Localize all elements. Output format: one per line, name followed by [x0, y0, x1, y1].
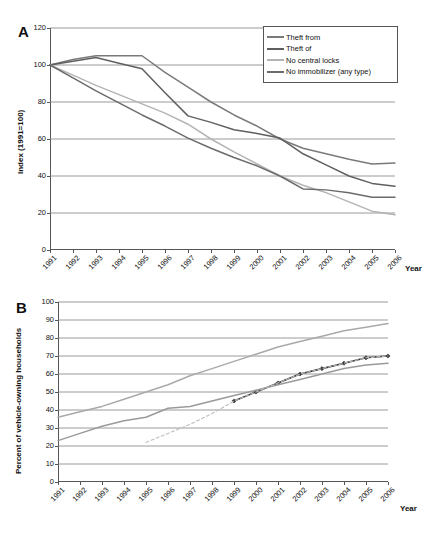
y-tick-label: 80: [32, 334, 54, 342]
x-tick-label: 1996: [155, 486, 176, 507]
panel-b-x-axis-title: Year: [400, 504, 417, 513]
x-tick-mark: [188, 250, 189, 253]
x-tick-label: 1993: [89, 486, 110, 507]
x-tick-mark: [58, 482, 59, 485]
x-tick-mark: [322, 482, 323, 485]
x-tick-label: 1994: [106, 254, 127, 275]
x-tick-mark: [388, 482, 389, 485]
y-tick-mark: [55, 392, 58, 393]
legend-item-label: No immobilizer (any type): [286, 67, 371, 76]
x-tick-mark: [96, 250, 97, 253]
y-tick-mark: [55, 338, 58, 339]
x-tick-mark: [344, 482, 345, 485]
y-tick-mark: [47, 176, 50, 177]
x-tick-mark: [280, 250, 281, 253]
x-tick-label: 2002: [290, 254, 311, 275]
x-tick-label: 1992: [60, 254, 81, 275]
y-tick-mark: [55, 446, 58, 447]
y-tick-label: 80: [24, 98, 46, 106]
y-tick-mark: [47, 102, 50, 103]
x-tick-mark: [303, 250, 304, 253]
x-tick-mark: [142, 250, 143, 253]
y-tick-mark: [55, 320, 58, 321]
y-tick-label: 120: [24, 24, 46, 32]
x-tick-label: 1998: [199, 486, 220, 507]
x-tick-mark: [80, 482, 81, 485]
x-tick-label: 2003: [313, 254, 334, 275]
legend-item[interactable]: Theft from: [267, 33, 395, 42]
y-tick-mark: [55, 410, 58, 411]
panel-b-series-canvas: [58, 302, 388, 482]
x-tick-mark: [102, 482, 103, 485]
y-tick-mark: [47, 65, 50, 66]
x-tick-mark: [372, 250, 373, 253]
x-tick-label: 2004: [331, 486, 352, 507]
panel-a-legend: Theft fromTheft ofNo central locksNo imm…: [263, 26, 398, 83]
y-tick-label: 10: [32, 460, 54, 468]
y-tick-label: 30: [32, 424, 54, 432]
x-tick-label: 2000: [243, 486, 264, 507]
x-tick-mark: [278, 482, 279, 485]
y-tick-label: 60: [32, 370, 54, 378]
x-tick-label: 1993: [83, 254, 104, 275]
x-tick-mark: [211, 250, 212, 253]
y-tick-label: 20: [32, 442, 54, 450]
y-tick-label: 20: [24, 209, 46, 217]
panel-b-letter: B: [16, 300, 27, 315]
x-tick-label: 1996: [152, 254, 173, 275]
legend-color-swatch: [267, 67, 284, 76]
x-tick-mark: [234, 250, 235, 253]
x-tick-mark: [326, 250, 327, 253]
y-tick-label: 70: [32, 352, 54, 360]
x-tick-mark: [50, 250, 51, 253]
x-tick-label: 2003: [309, 486, 330, 507]
x-tick-mark: [119, 250, 120, 253]
y-tick-label: 40: [24, 172, 46, 180]
x-tick-label: 1999: [221, 254, 242, 275]
x-tick-label: 2006: [382, 254, 403, 275]
y-tick-mark: [55, 374, 58, 375]
x-tick-label: 2001: [265, 486, 286, 507]
y-tick-mark: [55, 302, 58, 303]
x-tick-label: 1997: [177, 486, 198, 507]
y-tick-mark: [47, 213, 50, 214]
x-tick-mark: [256, 482, 257, 485]
y-tick-label: 100: [24, 61, 46, 69]
x-tick-mark: [165, 250, 166, 253]
panel-b: B Percent of vehicle-owning households Y…: [0, 292, 442, 547]
x-tick-label: 1994: [111, 486, 132, 507]
panel-a-x-axis-title: Year: [405, 264, 422, 273]
legend-item[interactable]: No immobilizer (any type): [267, 67, 395, 76]
x-tick-label: 1999: [221, 486, 242, 507]
legend-item[interactable]: No central locks: [267, 56, 395, 65]
y-tick-mark: [55, 428, 58, 429]
legend-color-swatch: [267, 56, 284, 65]
y-tick-mark: [55, 356, 58, 357]
x-tick-label: 2002: [287, 486, 308, 507]
x-tick-label: 2005: [359, 254, 380, 275]
y-tick-mark: [55, 464, 58, 465]
x-tick-mark: [73, 250, 74, 253]
x-tick-mark: [190, 482, 191, 485]
panel-a: A Index (1991=100) Year 020406080100120 …: [0, 0, 442, 292]
legend-item-label: No central locks: [286, 56, 339, 65]
y-tick-label: 0: [32, 478, 54, 486]
legend-color-swatch: [267, 44, 284, 53]
x-tick-label: 2001: [267, 254, 288, 275]
x-tick-label: 1998: [198, 254, 219, 275]
x-tick-mark: [146, 482, 147, 485]
x-tick-mark: [300, 482, 301, 485]
x-tick-mark: [366, 482, 367, 485]
x-tick-label: 1992: [67, 486, 88, 507]
y-tick-label: 100: [32, 298, 54, 306]
y-tick-label: 0: [24, 246, 46, 254]
x-tick-label: 2004: [336, 254, 357, 275]
x-tick-mark: [124, 482, 125, 485]
x-tick-label: 1991: [45, 486, 66, 507]
legend-item-label: Theft from: [286, 33, 320, 42]
legend-item[interactable]: Theft of: [267, 44, 395, 53]
x-tick-label: 1995: [129, 254, 150, 275]
x-tick-label: 2000: [244, 254, 265, 275]
x-tick-label: 1995: [133, 486, 154, 507]
x-tick-mark: [168, 482, 169, 485]
